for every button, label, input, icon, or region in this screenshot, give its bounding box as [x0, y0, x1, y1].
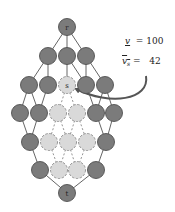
- node-a3: [78, 48, 95, 65]
- vs-subscript: s: [127, 60, 130, 67]
- node-d2: [41, 134, 58, 151]
- vs-upper-bound-label: vs = 42: [122, 56, 161, 67]
- node-c4: [69, 105, 86, 122]
- node-c1: [12, 105, 29, 122]
- node-d3: [60, 134, 77, 151]
- node-e1: [32, 162, 49, 179]
- graph-diagram: rst v = 100 vs = 42: [0, 0, 175, 212]
- node-a2: [59, 48, 76, 65]
- v-lower-bound-label: v = 100: [125, 36, 163, 46]
- node-e3: [69, 162, 86, 179]
- node-b2: [40, 77, 57, 94]
- v-symbol: v: [125, 36, 130, 46]
- node-c5: [88, 105, 105, 122]
- node-b4: [78, 77, 95, 94]
- node-d1: [22, 134, 39, 151]
- node-d5: [98, 134, 115, 151]
- node-t: t: [59, 185, 76, 202]
- v-value: 100: [146, 36, 163, 46]
- vs-value: 42: [149, 56, 160, 66]
- equals-sign: =: [133, 56, 141, 66]
- node-s: s: [59, 77, 76, 94]
- node-label: s: [65, 82, 69, 90]
- node-c6: [106, 105, 123, 122]
- node-r: r: [59, 19, 76, 36]
- node-c2: [31, 105, 48, 122]
- node-b5: [97, 77, 114, 94]
- equals-sign: =: [136, 36, 144, 46]
- node-e2: [51, 162, 68, 179]
- node-c3: [50, 105, 67, 122]
- node-e4: [88, 162, 105, 179]
- lattice-graph: rst: [0, 0, 175, 212]
- node-d4: [79, 134, 96, 151]
- node-label: t: [66, 190, 69, 198]
- node-a1: [40, 48, 57, 65]
- node-b1: [21, 77, 38, 94]
